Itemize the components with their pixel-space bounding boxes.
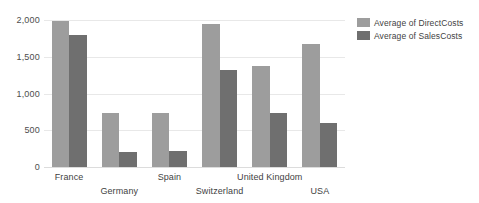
bar [270, 113, 288, 167]
bar [52, 21, 70, 167]
x-axis-label-united-kingdom: United Kingdom [237, 172, 302, 182]
y-axis-tick-label: 1,000 [0, 89, 40, 99]
bar [152, 113, 170, 167]
bar [320, 123, 338, 167]
legend-item[interactable]: Average of DirectCosts [357, 17, 475, 28]
bar-group [302, 20, 337, 167]
bar [69, 35, 87, 167]
x-axis: FranceGermanySpainSwitzerlandUnited King… [44, 167, 345, 203]
plot-area [44, 20, 345, 167]
legend-label: Average of SalesCosts [374, 31, 462, 41]
bar-group [202, 20, 237, 167]
bar-group [102, 20, 137, 167]
y-axis-tick-label: 1,500 [0, 52, 40, 62]
y-axis: 05001,0001,5002,000 [0, 20, 40, 167]
x-axis-label-usa: USA [311, 186, 330, 196]
x-axis-label-france: France [55, 172, 84, 182]
bar [119, 152, 137, 167]
legend-item[interactable]: Average of SalesCosts [357, 30, 475, 41]
x-axis-label-germany: Germany [100, 186, 138, 196]
legend-swatch-icon [357, 31, 370, 40]
bar [169, 151, 187, 167]
y-axis-tick-label: 2,000 [0, 15, 40, 25]
bar [302, 44, 320, 167]
bar [252, 66, 270, 167]
legend-label: Average of DirectCosts [374, 18, 463, 28]
y-axis-tick-label: 500 [0, 125, 40, 135]
bar-group [52, 20, 87, 167]
x-axis-label-switzerland: Switzerland [196, 186, 244, 196]
bars-layer [44, 20, 345, 167]
chart-legend: Average of DirectCostsAverage of SalesCo… [357, 17, 475, 43]
bar [220, 70, 238, 167]
bar-group [252, 20, 287, 167]
x-axis-label-spain: Spain [158, 172, 182, 182]
bar-group [152, 20, 187, 167]
bar [102, 113, 120, 167]
y-axis-tick-label: 0 [0, 162, 40, 172]
legend-swatch-icon [357, 18, 370, 27]
bar-chart-figure: 05001,0001,5002,000 FranceGermanySpainSw… [0, 0, 479, 203]
bar [202, 24, 220, 167]
